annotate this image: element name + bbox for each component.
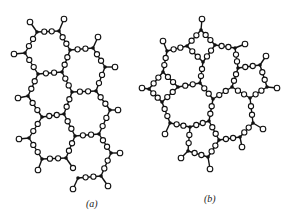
oxygen-atom [223, 88, 228, 93]
oxygen-atom [195, 54, 200, 59]
oxygen-atom [242, 130, 247, 135]
oxygen-atom [170, 79, 175, 84]
oxygen-atom [62, 62, 67, 67]
oxygen-atom [103, 101, 108, 106]
bond-line [232, 68, 238, 87]
terminal-oxygen-atom [242, 41, 248, 47]
bond-line [187, 46, 203, 62]
oxygen-atom [47, 113, 52, 118]
bond-line [250, 98, 253, 123]
oxygen-atom [198, 73, 203, 78]
oxygen-atom [104, 115, 109, 120]
terminal-oxygen-atom [61, 16, 67, 22]
bond-line [163, 72, 178, 87]
network-former-atom [40, 115, 44, 119]
oxygen-atom [100, 138, 105, 143]
terminal-oxygen-atom [117, 150, 123, 156]
oxygen-atom [70, 165, 75, 170]
terminal-oxygen-atom [16, 136, 22, 142]
terminal-oxygen-atom [263, 53, 269, 59]
bond-line [200, 83, 213, 99]
bond-line [28, 74, 38, 96]
oxygen-atom [192, 150, 197, 155]
oxygen-atom [253, 92, 258, 97]
bond-line [203, 45, 215, 62]
oxygen-atom [105, 158, 110, 163]
bond-line [209, 99, 213, 121]
bond-line [99, 110, 110, 134]
oxygen-atom [250, 63, 255, 68]
oxygen-atom [64, 41, 69, 46]
bond-line [163, 51, 167, 72]
bond-line [200, 62, 203, 83]
network-former-atom [94, 89, 98, 93]
oxygen-atom [94, 52, 99, 57]
oxygen-atom [151, 81, 156, 86]
oxygen-atom [181, 123, 186, 128]
network-former-atom [26, 94, 30, 98]
oxygen-atom [202, 86, 207, 91]
terminal-oxygen-atom [178, 155, 184, 161]
bond-line [96, 91, 110, 110]
oxygen-atom [35, 149, 40, 154]
oxygen-atom [178, 45, 183, 50]
oxygen-atom [223, 136, 228, 141]
terminal-oxygen-atom [115, 107, 121, 113]
bond-line [29, 138, 42, 159]
oxygen-atom [208, 48, 213, 53]
bond-line [62, 50, 70, 72]
network-former-atom [186, 149, 190, 153]
bond-line [213, 87, 232, 99]
oxygen-atom [165, 113, 170, 118]
network-former-atom [230, 85, 234, 89]
bond-line [240, 123, 253, 137]
oxygen-atom [27, 57, 32, 62]
oxygen-atom [183, 83, 188, 88]
bond-line [250, 87, 267, 98]
terminal-oxygen-atom [162, 131, 168, 137]
network-former-atom [217, 138, 221, 142]
bond-line [170, 123, 190, 127]
network-former-atom [161, 70, 165, 74]
network-former-atom [160, 100, 164, 104]
bond-line [260, 65, 267, 87]
bond-line [72, 91, 96, 92]
bond-line [219, 137, 240, 140]
oxygen-atom [165, 74, 170, 79]
oxygen-atom [190, 49, 195, 54]
oxygen-atom [248, 104, 253, 109]
bond-line [188, 127, 190, 151]
network-former-atom [236, 66, 240, 70]
oxygen-atom [54, 112, 59, 117]
oxygen-atom [66, 148, 71, 153]
bond-line [25, 32, 37, 53]
oxygen-atom [91, 174, 96, 179]
oxygen-atom [208, 37, 213, 42]
bond-line [28, 96, 42, 117]
oxygen-atom [99, 72, 104, 77]
oxygen-atom [98, 95, 103, 100]
oxygen-atom [47, 156, 52, 161]
terminal-oxygen-atom [274, 85, 280, 91]
network-former-atom [207, 119, 211, 123]
network-former-atom [91, 46, 95, 50]
bond-line [190, 121, 209, 127]
oxygen-atom [35, 107, 40, 112]
oxygen-atom [213, 143, 218, 148]
terminal-oxygen-atom [207, 166, 213, 172]
terminal-oxygen-atom [35, 167, 41, 173]
network-former-atom [23, 51, 27, 55]
oxygen-atom [233, 72, 238, 77]
bond-line [93, 48, 105, 67]
network-former-atom [99, 174, 103, 178]
oxygen-atom [162, 106, 167, 111]
network-former-atom [64, 156, 68, 160]
network-former-atom [211, 97, 215, 101]
network-former-atom [40, 157, 44, 161]
oxygen-atom [199, 66, 204, 71]
network-former-atom [76, 176, 80, 180]
oxygen-atom [77, 89, 82, 94]
bond-line [62, 72, 72, 92]
oxygen-atom [243, 64, 248, 69]
oxygen-atom [190, 82, 195, 87]
